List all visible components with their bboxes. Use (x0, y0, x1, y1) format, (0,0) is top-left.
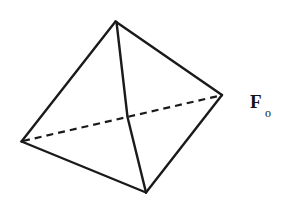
figure-label-base: F (250, 91, 262, 112)
edge-top-to-right (116, 22, 223, 96)
edge-top-to-bottom (117, 22, 147, 193)
figure-label: Fo (250, 92, 269, 115)
edge-left-to-bottom (22, 142, 147, 193)
figure-canvas: Fo (0, 0, 297, 206)
figure-label-subscript: o (265, 106, 272, 120)
edge-top-to-left (22, 22, 116, 142)
